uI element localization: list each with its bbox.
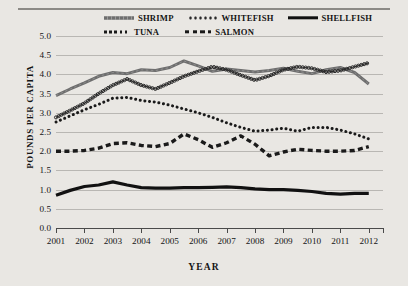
legend-swatch-whitefish-icon bbox=[188, 14, 218, 23]
y-axis-title: POUNDS PER CAPITA bbox=[25, 37, 35, 197]
x-axis-line bbox=[56, 228, 383, 229]
x-tick bbox=[84, 228, 85, 233]
top-rule bbox=[18, 8, 390, 10]
legend-item-whitefish: WHITEFISH bbox=[188, 13, 274, 23]
x-tick-label: 2012 bbox=[360, 236, 378, 246]
series-line-shellfish bbox=[56, 182, 369, 195]
x-tick bbox=[56, 228, 57, 233]
y-tick-label: 4.0 bbox=[40, 69, 51, 79]
y-tick-label: 3.5 bbox=[40, 89, 51, 99]
legend-label-shellfish: SHELLFISH bbox=[322, 13, 373, 23]
x-tick-label: 2005 bbox=[161, 236, 179, 246]
x-tick bbox=[198, 228, 199, 233]
x-tick bbox=[227, 228, 228, 233]
x-axis-title: YEAR bbox=[0, 262, 408, 272]
x-tick bbox=[383, 228, 384, 233]
chart-legend: SHRIMP WHITEFISH SHELLFISH TUNA SALMON bbox=[104, 12, 400, 38]
x-tick bbox=[312, 228, 313, 233]
y-tick-label: 4.5 bbox=[40, 50, 51, 60]
x-tick-label: 2006 bbox=[189, 236, 207, 246]
x-tick-label: 2008 bbox=[246, 236, 264, 246]
y-tick-label: 0.5 bbox=[40, 204, 51, 214]
x-tick bbox=[283, 228, 284, 233]
legend-item-shellfish: SHELLFISH bbox=[288, 13, 373, 23]
y-tick-label: 2.0 bbox=[40, 146, 51, 156]
x-tick-label: 2011 bbox=[331, 236, 349, 246]
x-tick-label: 2010 bbox=[303, 236, 321, 246]
x-tick-label: 2001 bbox=[47, 236, 65, 246]
legend-label-shrimp: SHRIMP bbox=[138, 13, 174, 23]
y-tick-label: 1.5 bbox=[40, 165, 51, 175]
series-line-salmon bbox=[56, 134, 369, 156]
x-tick-label: 2007 bbox=[217, 236, 235, 246]
x-tick bbox=[141, 228, 142, 233]
x-tick-label: 2004 bbox=[132, 236, 150, 246]
x-tick bbox=[170, 228, 171, 233]
x-tick-label: 2009 bbox=[274, 236, 292, 246]
legend-label-whitefish: WHITEFISH bbox=[222, 13, 274, 23]
y-tick-label: 3.0 bbox=[40, 108, 51, 118]
series-lines bbox=[56, 36, 383, 228]
legend-swatch-shellfish-icon bbox=[288, 14, 318, 23]
y-tick-label: 2.5 bbox=[40, 127, 51, 137]
x-tick bbox=[340, 228, 341, 233]
x-tick bbox=[369, 228, 370, 233]
legend-item-shrimp: SHRIMP bbox=[104, 13, 174, 23]
series-line-tuna bbox=[56, 97, 369, 138]
x-tick-label: 2002 bbox=[75, 236, 93, 246]
y-tick-label: 1.0 bbox=[40, 185, 51, 195]
x-tick bbox=[255, 228, 256, 233]
legend-swatch-shrimp-icon bbox=[104, 14, 134, 23]
x-tick bbox=[113, 228, 114, 233]
legend-row-1: SHRIMP WHITEFISH SHELLFISH bbox=[104, 12, 400, 24]
y-tick-label: 0.0 bbox=[40, 223, 51, 233]
x-tick-label: 2003 bbox=[104, 236, 122, 246]
plot-area: 5.04.54.03.53.02.52.01.51.00.50.0 200120… bbox=[56, 36, 383, 228]
y-tick-label: 5.0 bbox=[40, 31, 51, 41]
